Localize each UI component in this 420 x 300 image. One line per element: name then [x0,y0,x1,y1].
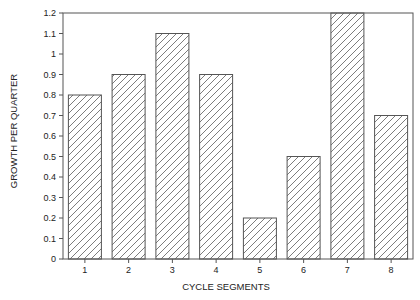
bar-2 [112,75,145,260]
x-axis-title: CYCLE SEGMENTS [182,281,270,292]
bar-7 [331,13,364,259]
bar-4 [200,75,233,260]
y-tick-label: 0.4 [43,172,56,182]
y-axis-title: GROWTH PER QUARTER [8,74,19,188]
bar-3 [156,34,189,260]
y-tick-label: 0.1 [43,234,56,244]
y-tick-label: 1.2 [43,8,56,18]
bars [68,13,407,259]
y-tick-label: 0.6 [43,131,56,141]
x-tick-label: 1 [82,265,87,275]
x-axis: 12345678 [82,259,393,275]
bar-chart: 00.10.20.30.40.50.60.70.80.911.11.2 1234… [0,0,420,300]
y-tick-label: 0.8 [43,90,56,100]
x-tick-label: 8 [389,265,394,275]
bar-5 [243,218,276,259]
y-axis: 00.10.20.30.40.50.60.70.80.911.11.2 [43,8,63,264]
y-tick-label: 0 [51,254,56,264]
y-tick-label: 0.7 [43,111,56,121]
x-tick-label: 4 [214,265,219,275]
x-tick-label: 5 [257,265,262,275]
y-tick-label: 0.2 [43,213,56,223]
x-tick-label: 6 [301,265,306,275]
y-tick-label: 0.3 [43,193,56,203]
x-tick-label: 7 [345,265,350,275]
x-tick-label: 2 [126,265,131,275]
y-tick-label: 0.5 [43,152,56,162]
bar-1 [68,95,101,259]
y-tick-label: 1 [51,49,56,59]
x-tick-label: 3 [170,265,175,275]
bar-6 [287,157,320,260]
y-tick-label: 0.9 [43,70,56,80]
bar-8 [375,116,408,260]
y-tick-label: 1.1 [43,29,56,39]
